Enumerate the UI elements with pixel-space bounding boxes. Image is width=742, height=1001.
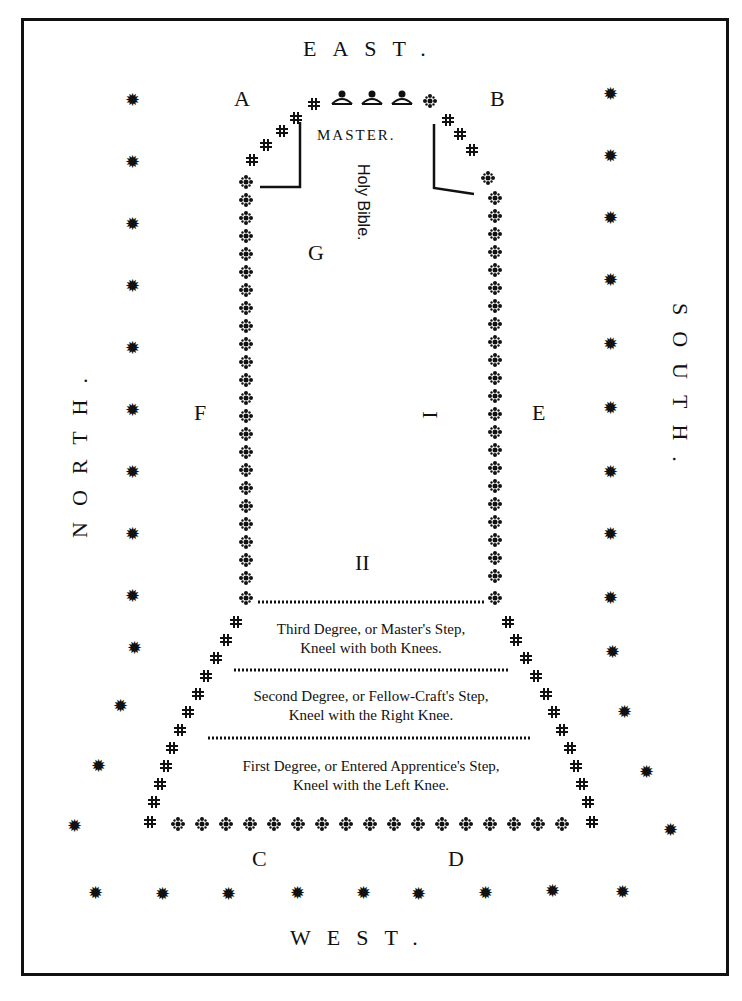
candle-icon: ✹ [124, 588, 140, 604]
candle-icon: ✹ [126, 640, 142, 656]
candle-icon: ✹ [124, 464, 140, 480]
candle-icon: ✹ [614, 884, 630, 900]
lodge-outline [0, 0, 742, 1001]
crown-icons [332, 92, 412, 105]
candle-icon: ✹ [355, 885, 371, 901]
candle-icon: ✹ [602, 336, 618, 352]
candle-icon: ✹ [124, 402, 140, 418]
arch-border [246, 94, 495, 185]
candle-icon: ✹ [124, 340, 140, 356]
candle-icon: ✹ [616, 704, 632, 720]
candle-icon: ✹ [124, 216, 140, 232]
candle-icon: ✹ [289, 885, 305, 901]
step-first-line1: First Degree, or Entered Apprentice's St… [196, 757, 546, 776]
step-third-line2: Kneel with both Knees. [236, 639, 506, 658]
candle-icon: ✹ [602, 400, 618, 416]
candle-icon: ✹ [602, 272, 618, 288]
candle-icon: ✹ [477, 885, 493, 901]
candle-icon: ✹ [90, 758, 106, 774]
candle-icon: ✹ [662, 822, 678, 838]
candle-icon: ✹ [602, 86, 618, 102]
step-third: Third Degree, or Master's Step, Kneel wi… [236, 620, 506, 658]
candle-icon: ✹ [544, 883, 560, 899]
step-second: Second Degree, or Fellow-Craft's Step, K… [210, 687, 532, 725]
candle-icon: ✹ [604, 644, 620, 660]
candle-icon: ✹ [124, 92, 140, 108]
step-third-line1: Third Degree, or Master's Step, [236, 620, 506, 639]
left-border [239, 175, 253, 605]
candle-icon: ✹ [112, 698, 128, 714]
right-border [488, 191, 502, 605]
candle-icon: ✹ [154, 886, 170, 902]
step-first: First Degree, or Entered Apprentice's St… [196, 757, 546, 795]
candle-icon: ✹ [410, 886, 426, 902]
candle-icon: ✹ [602, 210, 618, 226]
master-chair [260, 122, 474, 194]
step-second-line1: Second Degree, or Fellow-Craft's Step, [210, 687, 532, 706]
candle-icon: ✹ [602, 590, 618, 606]
candle-icon: ✹ [602, 526, 618, 542]
candle-icon: ✹ [638, 764, 654, 780]
candle-icon: ✹ [124, 154, 140, 170]
candle-icon: ✹ [66, 818, 82, 834]
candle-icon: ✹ [124, 526, 140, 542]
candle-icon: ✹ [220, 886, 236, 902]
candle-icon: ✹ [87, 885, 103, 901]
candle-icon: ✹ [124, 278, 140, 294]
candle-icon: ✹ [602, 148, 618, 164]
step-first-line2: Kneel with the Left Knee. [196, 776, 546, 795]
step-second-line2: Kneel with the Right Knee. [210, 706, 532, 725]
candle-icon: ✹ [602, 464, 618, 480]
